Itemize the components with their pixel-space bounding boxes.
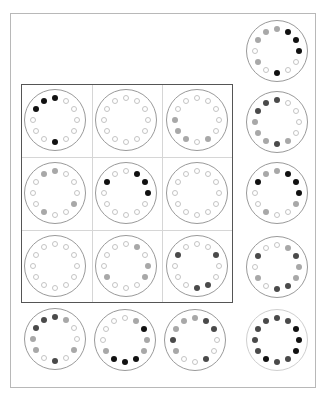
- dial-dot-empty: [41, 136, 47, 142]
- column-result-dial-bottom-2[interactable]: [94, 309, 156, 371]
- dial-dot-dark: [213, 252, 219, 258]
- dial-dot-black: [104, 179, 110, 185]
- dial-dot-gray: [263, 171, 269, 177]
- dial-dot-empty: [112, 244, 118, 250]
- row-result-dial-right-1[interactable]: [246, 20, 308, 82]
- dial-dot-empty: [172, 190, 178, 196]
- dial-dot-empty: [101, 117, 107, 123]
- dial-dot-gray: [255, 275, 261, 281]
- dial-dot-gray: [255, 59, 261, 65]
- grid-dial-r2c1[interactable]: [24, 162, 86, 224]
- dial-dot-black: [41, 98, 47, 104]
- dial-dot-gray: [30, 336, 36, 342]
- dial-dot-gray: [192, 315, 198, 321]
- dial-dot-empty: [172, 263, 178, 269]
- dial-dot-empty: [30, 263, 36, 269]
- dial-dot-dark: [255, 326, 261, 332]
- dial-dot-empty: [52, 241, 58, 247]
- dial-dot-empty: [134, 98, 140, 104]
- row-result-dial-right-5[interactable]: [246, 309, 308, 371]
- grid-dial-r3c2[interactable]: [95, 235, 157, 297]
- dial-dot-empty: [71, 179, 77, 185]
- dial-dot-dark: [52, 314, 58, 320]
- grid-dial-r3c1[interactable]: [24, 235, 86, 297]
- grid-dial-r1c3[interactable]: [166, 89, 228, 151]
- dial-dot-empty: [112, 209, 118, 215]
- dial-dot-black: [52, 139, 58, 145]
- dial-dot-dark: [263, 318, 269, 324]
- dial-dot-empty: [145, 117, 151, 123]
- dial-dot-empty: [183, 244, 189, 250]
- dial-dot-black: [293, 348, 299, 354]
- dial-dot-empty: [33, 252, 39, 258]
- dial-dot-empty: [214, 337, 220, 343]
- dial-dot-empty: [123, 212, 129, 218]
- dial-dot-dark: [41, 317, 47, 323]
- grid-dial-r1c2[interactable]: [95, 89, 157, 151]
- dial-dot-empty: [30, 117, 36, 123]
- dial-dot-empty: [30, 190, 36, 196]
- dial-dot-gray: [172, 117, 178, 123]
- dial-dot-black: [141, 326, 147, 332]
- dial-dot-gray: [255, 37, 261, 43]
- dial-dot-black: [293, 326, 299, 332]
- grid-divider-h1: [22, 157, 232, 158]
- column-result-dial-bottom-3[interactable]: [164, 309, 226, 371]
- column-result-dial-bottom-1[interactable]: [24, 308, 86, 370]
- dial-dot-dark: [255, 348, 261, 354]
- dial-dot-empty: [134, 282, 140, 288]
- dial-dot-dark: [293, 253, 299, 259]
- dial-dot-empty: [175, 106, 181, 112]
- dial-dot-black: [255, 179, 261, 185]
- dial-dot-gray: [142, 274, 148, 280]
- dial-dot-empty: [112, 171, 118, 177]
- dial-dot-gray: [173, 326, 179, 332]
- dial-dot-dark: [285, 356, 291, 362]
- dial-dot-black: [285, 171, 291, 177]
- dial-dot-gray: [133, 318, 139, 324]
- grid-divider-v1: [92, 85, 93, 302]
- dial-dot-black: [296, 337, 302, 343]
- dial-dot-black: [293, 37, 299, 43]
- grid-dial-r1c1[interactable]: [24, 89, 86, 151]
- dial-dot-empty: [142, 106, 148, 112]
- dial-dot-empty: [205, 209, 211, 215]
- dial-dot-gray: [141, 348, 147, 354]
- dial-dot-empty: [74, 117, 80, 123]
- row-result-dial-right-2[interactable]: [246, 91, 308, 153]
- dial-dot-empty: [104, 106, 110, 112]
- dial-dot-gray: [173, 348, 179, 354]
- dial-dot-gray: [285, 245, 291, 251]
- dial-dot-empty: [74, 336, 80, 342]
- dial-dot-black: [33, 106, 39, 112]
- dial-dot-empty: [252, 264, 258, 270]
- dial-dot-gray: [52, 168, 58, 174]
- dial-dot-empty: [41, 355, 47, 361]
- dial-dot-empty: [104, 252, 110, 258]
- dial-dot-gray: [293, 275, 299, 281]
- dial-dot-black: [122, 359, 128, 365]
- dial-dot-empty: [63, 136, 69, 142]
- dial-dot-empty: [123, 241, 129, 247]
- grid-dial-r2c3[interactable]: [166, 162, 228, 224]
- dial-dot-empty: [263, 245, 269, 251]
- grid-dial-r2c2[interactable]: [95, 162, 157, 224]
- grid-dial-r3c3[interactable]: [166, 235, 228, 297]
- dial-dot-dark: [205, 282, 211, 288]
- dial-dot-gray: [274, 168, 280, 174]
- grid-divider-h2: [22, 230, 232, 231]
- dial-dot-empty: [71, 128, 77, 134]
- grid-divider-v2: [162, 85, 163, 302]
- dial-dot-empty: [285, 67, 291, 73]
- dial-dot-gray: [71, 347, 77, 353]
- row-result-dial-right-4[interactable]: [246, 236, 308, 298]
- dial-dot-gray: [205, 136, 211, 142]
- row-result-dial-right-3[interactable]: [246, 162, 308, 224]
- dial-dot-empty: [252, 48, 258, 54]
- dial-dot-empty: [194, 212, 200, 218]
- dial-dot-empty: [101, 263, 107, 269]
- dial-dot-empty: [122, 315, 128, 321]
- dial-dot-empty: [71, 106, 77, 112]
- dial-dot-empty: [213, 106, 219, 112]
- dial-dot-black: [263, 356, 269, 362]
